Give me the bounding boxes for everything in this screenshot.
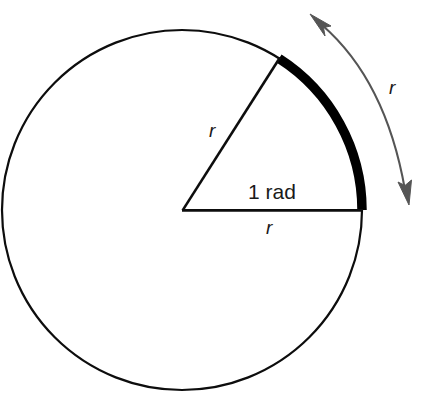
radian-diagram-canvas (0, 0, 423, 404)
label-angle-one-radian: 1 rad (248, 181, 296, 202)
label-arc-length: r (389, 78, 395, 97)
label-radius-slant: r (209, 121, 215, 140)
arrow-up-left-icon (310, 14, 331, 36)
radian-diagram: r 1 rad r r (0, 0, 423, 404)
label-radius-base: r (266, 218, 272, 237)
